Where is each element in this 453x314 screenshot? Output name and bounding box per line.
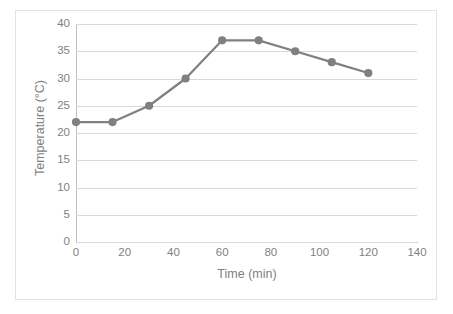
data-point-marker [145, 102, 153, 110]
data-point-marker [328, 58, 336, 66]
series-line [76, 40, 368, 122]
data-point-marker [255, 36, 263, 44]
y-tick-label: 0 [64, 236, 70, 248]
data-point-marker [108, 118, 116, 126]
y-tick-label: 40 [57, 18, 70, 30]
y-tick-label: 15 [57, 154, 70, 166]
data-point-marker [291, 47, 299, 55]
y-tick-label: 20 [57, 127, 70, 139]
plot-area [76, 24, 417, 242]
x-tick-label: 120 [359, 247, 378, 259]
line-series [76, 24, 417, 242]
data-point-marker [182, 74, 190, 82]
y-tick-label: 5 [64, 209, 70, 221]
chart-container: 0510152025303540 020406080100120140 Time… [15, 10, 437, 300]
data-point-marker [364, 69, 372, 77]
y-tick-label: 30 [57, 73, 70, 85]
x-tick-label: 100 [310, 247, 329, 259]
y-axis-title: Temperature (°C) [33, 48, 47, 208]
y-tick-label: 10 [57, 182, 70, 194]
data-point-marker [218, 36, 226, 44]
data-point-marker [72, 118, 80, 126]
x-axis-title: Time (min) [76, 267, 418, 281]
x-tick-label: 20 [118, 247, 131, 259]
y-tick-label: 35 [57, 45, 70, 57]
x-tick-label: 60 [216, 247, 229, 259]
gridline-y-0 [76, 242, 417, 243]
x-tick-label: 0 [73, 247, 79, 259]
x-tick-label: 40 [167, 247, 180, 259]
y-tick-label: 25 [57, 100, 70, 112]
x-tick-label: 80 [264, 247, 277, 259]
x-tick-label: 140 [407, 247, 426, 259]
